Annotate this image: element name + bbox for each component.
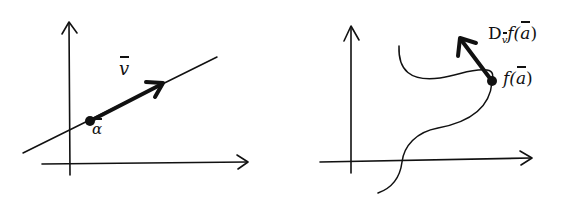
point-a-label: α <box>92 120 102 138</box>
point-fa-label: f(a) <box>503 68 533 88</box>
point-a-text: α <box>92 120 102 138</box>
derivative-arg: a <box>520 23 530 43</box>
left-diagram <box>23 22 248 175</box>
vector-v-text: v <box>119 58 129 79</box>
derivative-prefix: D <box>488 23 502 43</box>
derivative-subscript: v <box>502 34 508 45</box>
derivative-close: ) <box>530 23 537 43</box>
left-x-axis <box>42 162 247 164</box>
point-fa-close: ) <box>526 68 533 88</box>
point-fa-arg: a <box>516 68 526 88</box>
derivative-arrow <box>462 41 492 81</box>
left-y-axis <box>69 23 70 175</box>
right-diagram <box>320 26 532 193</box>
vector-v-arrow <box>90 84 162 121</box>
point-fa-dot <box>487 76 497 86</box>
diagram-canvas <box>0 0 564 209</box>
derivative-label: Dvf(a) <box>488 23 537 45</box>
point-fa-func: f( <box>503 68 516 88</box>
derivative-func: f( <box>507 23 520 43</box>
vector-v-label: v <box>119 58 129 79</box>
right-curve <box>378 46 493 193</box>
